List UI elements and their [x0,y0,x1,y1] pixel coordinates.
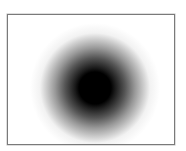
image-frame [7,14,175,145]
gaussian-blob [8,15,174,144]
